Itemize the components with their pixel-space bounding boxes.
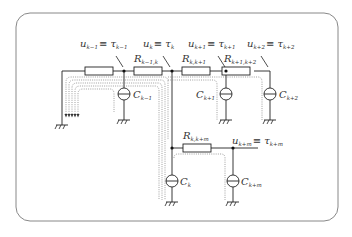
- source-c-k: [166, 175, 178, 187]
- resistor-r-k-kp1: [182, 67, 210, 75]
- source-c-km1: [118, 88, 130, 100]
- resistor-r-km1-k: [134, 67, 162, 75]
- source-c-kp2: [264, 88, 276, 100]
- circuit-diagram: uk−1≡ τk−1 uk≡ τk uk+1≡ τk+1 uk+2≡ τk+2 …: [0, 0, 352, 237]
- resistor-r-k-kpm: [183, 144, 211, 152]
- resistor-left: [85, 67, 113, 75]
- source-c-kp1: [220, 88, 232, 100]
- label-u-k: uk≡ τk: [143, 38, 175, 50]
- source-c-kpm: [227, 175, 239, 187]
